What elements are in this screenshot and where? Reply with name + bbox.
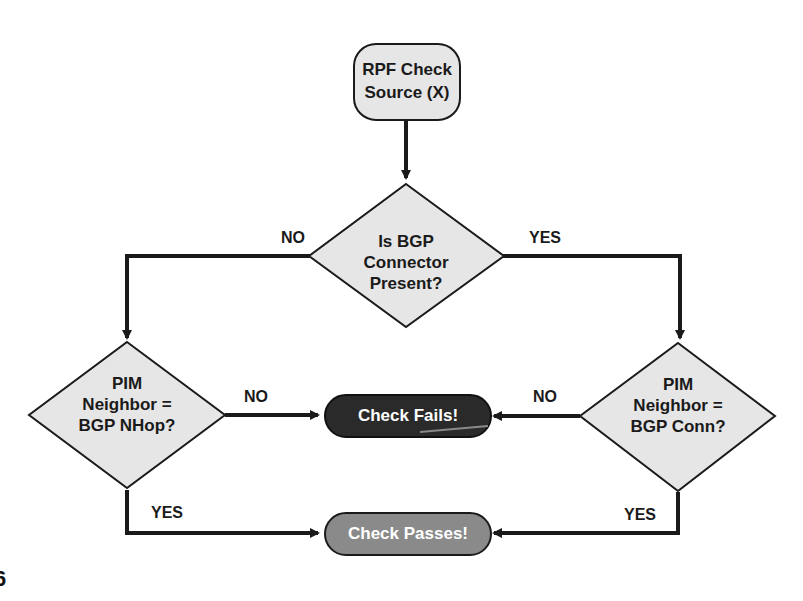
fail-node-label: Check Fails! <box>358 406 458 425</box>
flowchart-canvas: RPF Check Source (X) Is BGP Connector Pr… <box>0 0 803 601</box>
edge-label-bgp-yes: YES <box>529 229 561 246</box>
edge-bgp-no <box>127 256 310 338</box>
decision-bgp-line3: Present? <box>370 274 443 293</box>
decision-nhop: PIM Neighbor = BGP NHop? <box>29 342 225 488</box>
figure-number-fragment: 6 <box>0 566 6 592</box>
decision-nhop-line1: PIM <box>112 374 142 393</box>
decision-conn: PIM Neighbor = BGP Conn? <box>580 343 775 491</box>
start-node: RPF Check Source (X) <box>354 44 460 120</box>
edge-label-nhop-no: NO <box>244 388 268 405</box>
decision-bgp-line1: Is BGP <box>378 232 434 251</box>
edge-label-nhop-yes: YES <box>151 504 183 521</box>
decision-conn-line2: Neighbor = <box>633 396 722 415</box>
decision-conn-line1: PIM <box>663 375 693 394</box>
decision-bgp-line2: Connector <box>364 253 449 272</box>
pass-node-label: Check Passes! <box>348 524 468 543</box>
decision-nhop-line3: BGP NHop? <box>79 416 176 435</box>
edge-label-conn-no: NO <box>533 388 557 405</box>
edge-bgp-yes <box>503 256 680 338</box>
decision-conn-line3: BGP Conn? <box>630 417 725 436</box>
start-node-line1: RPF Check <box>362 60 452 79</box>
fail-node: Check Fails! <box>325 395 491 437</box>
start-node-line2: Source (X) <box>364 83 449 102</box>
decision-bgp-connector: Is BGP Connector Present? <box>309 184 504 327</box>
pass-node: Check Passes! <box>325 513 491 555</box>
edge-label-conn-yes: YES <box>624 506 656 523</box>
decision-nhop-line2: Neighbor = <box>82 395 171 414</box>
edge-label-bgp-no: NO <box>281 229 305 246</box>
connectors <box>127 120 680 533</box>
